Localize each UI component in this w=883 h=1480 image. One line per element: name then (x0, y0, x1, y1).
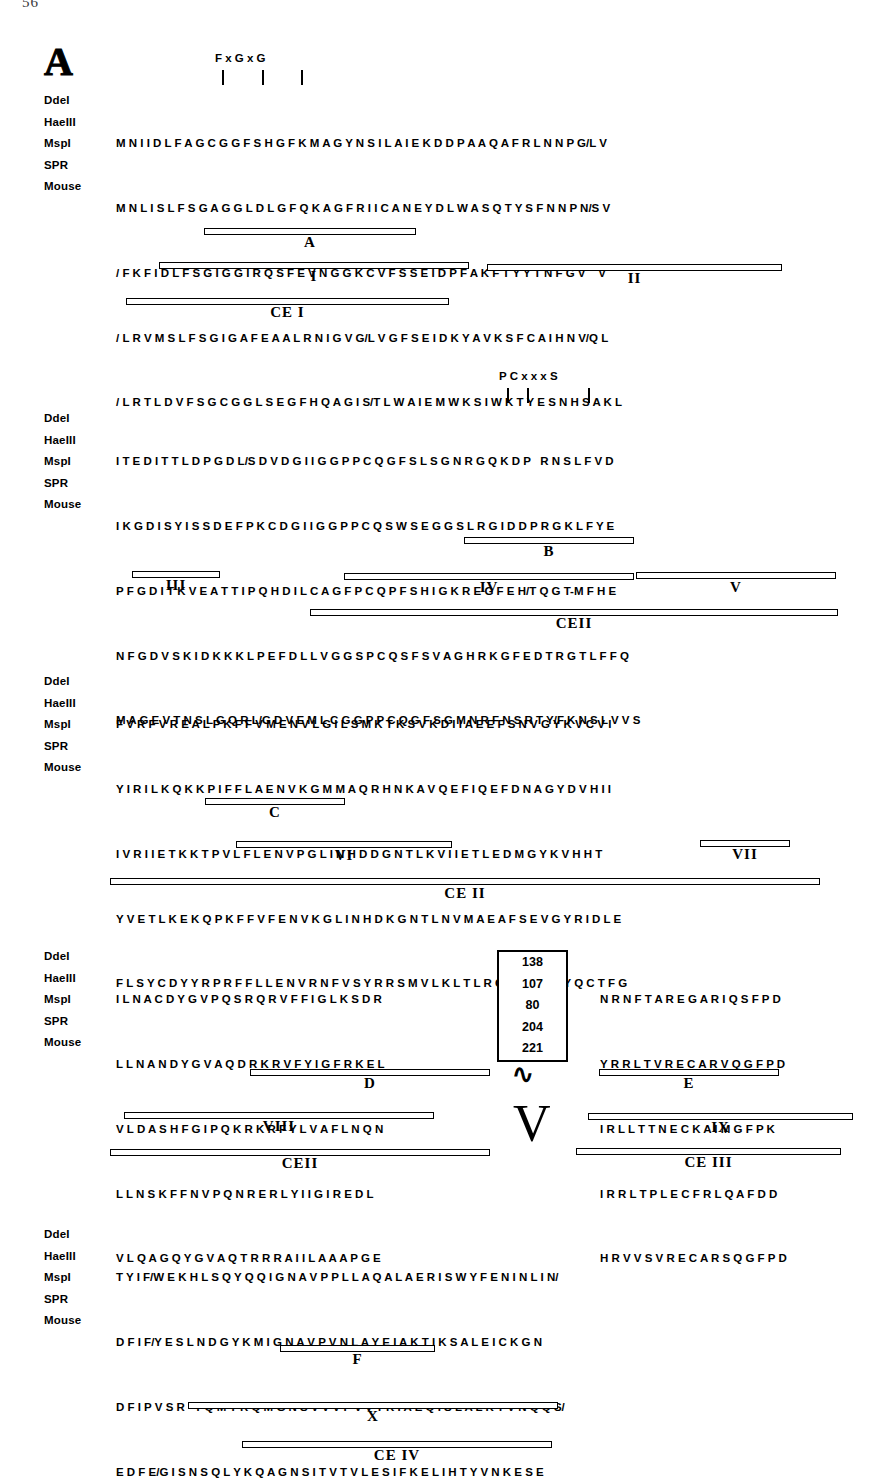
organism-name: HaeIII (44, 1246, 114, 1268)
organism-name: Mouse (44, 494, 114, 516)
sequence-row: I L N A C D Y G V P Q S R Q R V F F I G … (116, 989, 385, 1011)
sequence-row: L L N S K F F N V P Q N R E R L Y I I G … (116, 1184, 385, 1206)
motif-tick (507, 388, 509, 403)
organism-names: DdeI HaeIII MspI SPR Mouse (44, 90, 114, 198)
domain-bar-label: VII (700, 846, 790, 863)
organism-name: DdeI (44, 1224, 114, 1246)
domain-bar-label: CE II (110, 885, 820, 902)
organism-name: MspI (44, 989, 114, 1011)
domain-bar-label: D (250, 1075, 490, 1092)
page-number-artifact: 56 (22, 0, 39, 11)
domain-bar-label: C (205, 804, 345, 821)
sequence-row: T Y I F/W E K H L S Q Y Q Q I G N A V P … (116, 1267, 576, 1289)
sequence-row: E D F E/G I S N S Q L Y K Q A G N S I T … (116, 1462, 576, 1480)
motif-tick (222, 70, 224, 85)
domain-bar-label: II (487, 270, 782, 287)
organism-name: Mouse (44, 176, 114, 198)
organism-name: HaeIII (44, 693, 114, 715)
sequence-row: F V R F V R E A L P K F F V M E N V L G … (116, 714, 627, 736)
organism-name: SPR (44, 1011, 114, 1033)
motif-tick (262, 70, 264, 85)
organism-name: MspI (44, 714, 114, 736)
sequence-row: I K G D I S Y I S S D E F P K C D G I I … (116, 516, 640, 538)
variable-region-length: 204 (499, 1017, 566, 1039)
variable-region-length: 221 (499, 1038, 566, 1060)
organism-name: HaeIII (44, 968, 114, 990)
domain-bar-label: CE III (576, 1154, 841, 1171)
domain-bar-CE-II (110, 878, 820, 885)
domain-bar-label: CE IV (242, 1447, 552, 1464)
variable-region-length: 138 (499, 952, 566, 974)
domain-bar-label: VI (236, 847, 452, 864)
motif-pcxxxs-label: P C x x x S (499, 370, 558, 382)
domain-bar-label: IX (588, 1119, 853, 1136)
variable-region-length-box: 138 107 80 204 221 (497, 950, 568, 1062)
domain-bar-label: V (636, 579, 836, 596)
organism-names: DdeI HaeIII MspI SPR Mouse (44, 408, 114, 516)
organism-name: MspI (44, 451, 114, 473)
motif-fxgxg-label: F x G x G (215, 52, 266, 64)
sequence-row: N R N F T A R E G A R I Q S F P D (600, 989, 787, 1011)
variable-region-squiggle-icon: ∿ (512, 1062, 534, 1088)
organism-name: SPR (44, 736, 114, 758)
domain-bar-label: B (464, 543, 634, 560)
organism-names: DdeI HaeIII MspI SPR Mouse (44, 1224, 114, 1332)
sequence-row: / L R V M S L F S G I G A F E A A L R N … (116, 328, 622, 350)
organism-name: SPR (44, 473, 114, 495)
sequence-row: I T E D I T T L D P G D L/S D V D G I I … (116, 451, 640, 473)
figure-canvas: 56 A F x G x G DdeI HaeIII MspI SPR Mous… (0, 0, 883, 1480)
variable-region-length: 80 (499, 995, 566, 1017)
variable-region-v-glyph: V (513, 1098, 551, 1150)
motif-tick (588, 388, 590, 403)
motif-tick (301, 70, 303, 85)
domain-bar-label: CE I (126, 304, 449, 321)
organism-name: DdeI (44, 90, 114, 112)
domain-bar-label: F (280, 1351, 435, 1368)
domain-bar-label: CEII (310, 615, 838, 632)
domain-bar-label: CEII (110, 1155, 490, 1172)
sequence-row: N F G D V S K I D K K K L P E F D L L V … (116, 646, 640, 668)
organism-names: DdeI HaeIII MspI SPR Mouse (44, 946, 114, 1054)
sequence-row: I R R L T P L E C F R L Q A F D D (600, 1184, 787, 1206)
organism-name: DdeI (44, 946, 114, 968)
organism-name: HaeIII (44, 112, 114, 134)
organism-name: SPR (44, 1289, 114, 1311)
sequence-row: Y V E T L K E K Q P K F F V F E N V K G … (116, 909, 627, 931)
variable-region-length: 107 (499, 974, 566, 996)
organism-name: Mouse (44, 1032, 114, 1054)
organism-name: Mouse (44, 757, 114, 779)
panel-letter: A (44, 42, 73, 82)
domain-bar-V (636, 572, 836, 579)
organism-name: DdeI (44, 671, 114, 693)
domain-bar-label: VIII (124, 1118, 434, 1135)
organism-name: DdeI (44, 408, 114, 430)
domain-bar-label: I (159, 268, 469, 285)
domain-bar-label: A (204, 234, 416, 251)
sequence-row: Y I R I L K Q K K P I F F L A E N V K G … (116, 779, 627, 801)
motif-tick (527, 388, 529, 403)
sequence-row: H R V V S V R E C A R S Q G F P D (600, 1248, 787, 1270)
organism-name: HaeIII (44, 430, 114, 452)
organism-name: Mouse (44, 1310, 114, 1332)
sequence-row: M N L I S L F S G A G G L D L G F Q K A … (116, 198, 622, 220)
domain-bar-label: III (132, 577, 220, 594)
sequence-row: M N I I D L F A G C G G F S H G F K M A … (116, 133, 622, 155)
variable-region-lengths: 138 107 80 204 221 (499, 952, 566, 1060)
organism-name: MspI (44, 133, 114, 155)
organism-name: MspI (44, 1267, 114, 1289)
domain-bar-label: X (188, 1408, 558, 1425)
organism-name: SPR (44, 155, 114, 177)
organism-names: DdeI HaeIII MspI SPR Mouse (44, 671, 114, 779)
domain-bar-label: E (599, 1075, 779, 1092)
domain-bar-label: IV (344, 579, 634, 596)
